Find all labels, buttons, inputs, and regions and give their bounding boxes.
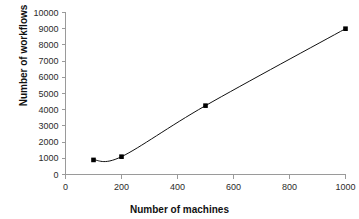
tick-marks [62, 13, 346, 179]
data-series [94, 29, 346, 162]
y-tick-label: 6000 [0, 72, 59, 82]
axes [66, 13, 346, 175]
data-markers [91, 26, 348, 162]
y-tick-label: 9000 [0, 24, 59, 34]
x-tick-label: 600 [226, 182, 241, 192]
y-tick-label: 7000 [0, 56, 59, 66]
data-point-marker [343, 26, 348, 31]
x-tick-label: 0 [63, 182, 68, 192]
y-tick-label: 2000 [0, 137, 59, 147]
data-point-marker [203, 103, 208, 108]
series-line [94, 29, 346, 162]
y-tick-label: 10000 [0, 8, 59, 18]
x-tick-label: 800 [282, 182, 297, 192]
y-tick-label: 8000 [0, 40, 59, 50]
line-chart: 0100020003000400050006000700080009000100… [0, 0, 359, 219]
y-tick-label: 0 [0, 170, 59, 180]
data-point-marker [119, 154, 124, 159]
x-axis-title: Number of machines [0, 204, 359, 215]
y-axis-title: Number of workflows [18, 0, 29, 126]
x-tick-label: 400 [170, 182, 185, 192]
y-tick-label: 1000 [0, 153, 59, 163]
x-tick-label: 200 [114, 182, 129, 192]
data-point-marker [91, 158, 96, 163]
y-tick-label: 3000 [0, 121, 59, 131]
y-tick-label: 5000 [0, 89, 59, 99]
x-tick-label: 1000 [335, 182, 355, 192]
y-tick-label: 4000 [0, 105, 59, 115]
